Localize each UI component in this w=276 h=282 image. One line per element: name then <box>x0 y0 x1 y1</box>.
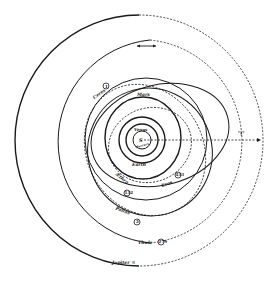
label-mercury: Mercury <box>134 142 150 150</box>
thule-orbit-dashed <box>150 40 242 243</box>
svg-text:132: 132 <box>125 190 134 195</box>
label-earth: Earth <box>131 162 146 167</box>
orbit-diagram: S ♈ Venus Mercury Earth Mars Ceres 1 Ero… <box>0 0 276 282</box>
equinox-arrowhead <box>257 138 261 142</box>
label-mars: Mars <box>136 92 150 97</box>
thule-orbit <box>58 40 150 243</box>
ceres-number-badge: 1 <box>103 83 109 89</box>
svg-text:433: 433 <box>176 172 185 177</box>
equinox-symbol: ♈ <box>238 130 244 138</box>
label-pallas: Pallas <box>114 205 131 215</box>
pallas-number-badge: 2 <box>134 219 140 225</box>
thule-number-badge: 279 <box>158 239 167 245</box>
label-eros: Eros <box>160 179 174 188</box>
label-thule: Thule <box>138 240 153 245</box>
label-venus: Venus <box>134 127 148 132</box>
aethra-number-badge: 132 <box>124 190 133 196</box>
eros-number-badge: 433 <box>175 172 184 178</box>
svg-text:1: 1 <box>105 84 108 89</box>
sun-symbol: S <box>139 137 143 143</box>
svg-text:2: 2 <box>136 219 139 224</box>
direction-arrow <box>137 45 156 48</box>
svg-text:279: 279 <box>159 239 168 244</box>
label-jupiter: Jupiter ♃ <box>111 260 135 265</box>
jupiter-orbit <box>15 15 139 266</box>
